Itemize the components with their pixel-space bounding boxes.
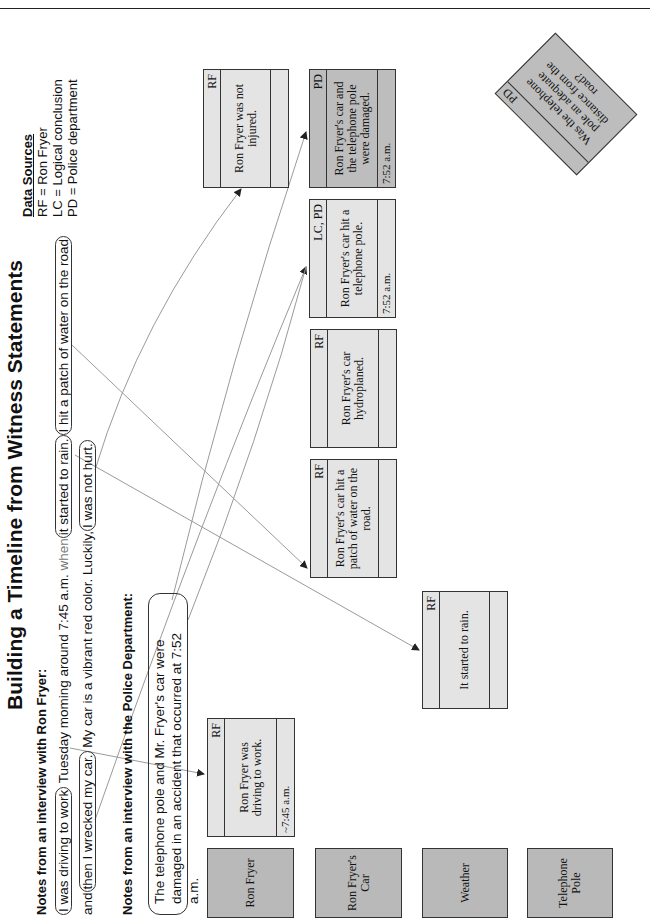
card-text: Ron Fryer's car hydroplaned. [328, 330, 378, 447]
card-time [489, 592, 507, 708]
note-text: and [80, 892, 95, 915]
card-started-to-rain: RF It started to rain. [422, 591, 508, 709]
card-source: RF [208, 719, 225, 836]
card-question-pole-distance: PD Was the telephone pole an adequate di… [495, 33, 638, 176]
note-oval-not-hurt: I was not hurt. [79, 440, 96, 531]
note-oval-rain: it started to rain. [55, 436, 72, 539]
card-text: Ron Fryer was driving to work. [225, 719, 276, 836]
arrow-not-injured [95, 189, 241, 470]
card-text: Was the telephone pole an adequate dista… [508, 34, 636, 162]
card-car-and-pole-damaged: PD Ron Fryer's car and the telephone pol… [309, 69, 396, 188]
police-note-line-1: The telephone pole and Mr. Fryer's car w… [151, 604, 168, 904]
card-source: RF [204, 70, 221, 187]
note-text: when [56, 538, 71, 570]
legend-item-lc: LC = Logical conclusion [50, 79, 65, 217]
card-time: 7:52 a.m. [377, 70, 395, 187]
card-source: RF [311, 330, 328, 447]
arrow-damaged [172, 132, 306, 600]
ron-fryer-notes-line-1: I was driving to work Tuesday moming aro… [55, 236, 72, 915]
card-source: RF [423, 592, 440, 708]
category-telephone-pole: Telephone Pole [527, 848, 613, 918]
note-text: Tuesday moming around 7:45 a.m. [56, 571, 71, 787]
legend-title: Data Sources [20, 79, 35, 217]
card-text: Ron Fryer was not injured. [221, 70, 270, 187]
data-sources-legend: Data Sources RF = Ron Fryer LC = Logical… [20, 79, 80, 217]
card-time [378, 460, 396, 577]
note-oval-patch: I hit a patch of water on the road [55, 236, 72, 436]
police-note-line-2: damaged in an accident that occurred at … [168, 604, 202, 904]
legend-item-rf: RF = Ron Fryer [35, 79, 50, 217]
card-not-injured: RF Ron Fryer was not injured. [203, 69, 289, 188]
ron-fryer-notes-heading: Notes from an interview with Ron Fryer: [34, 669, 49, 915]
card-text: Ron Fryer's car hit a telephone pole. [327, 200, 377, 317]
card-driving-to-work: RF Ron Fryer was driving to work. ~7:45 … [207, 718, 295, 837]
police-notes-oval: The telephone pole and Mr. Fryer's car w… [148, 593, 188, 915]
card-text: Ron Fryer's car hit a patch of water on … [328, 460, 378, 577]
note-text: My car is a vibrant red color. Luckily, [80, 531, 95, 751]
card-time [378, 330, 396, 447]
legend-item-pd: PD = Police department [65, 79, 80, 217]
category-ron-fryers-car: Ron Fryer's Car [315, 848, 402, 918]
card-text: Ron Fryer's car and the telephone pole w… [327, 70, 377, 187]
diagram-canvas: Building a Timeline from Witness Stateme… [0, 0, 650, 920]
card-time: ~7:45 a.m. [276, 719, 294, 836]
card-text: It started to rain. [440, 592, 489, 708]
note-oval-wrecked: then I wrecked my car. [79, 751, 96, 892]
card-source: LC, PD [310, 200, 327, 317]
category-weather: Weather [422, 848, 508, 918]
ron-fryer-notes-line-2: andthen I wrecked my car. My car is a vi… [79, 440, 96, 915]
category-ron-fryer: Ron Fryer [207, 848, 294, 918]
card-hydroplaned: RF Ron Fryer's car hydroplaned. [310, 329, 397, 448]
note-oval-driving: I was driving to work [55, 787, 72, 915]
card-source: PD [310, 70, 327, 187]
card-time: 7:52 a.m. [377, 200, 395, 317]
card-hit-telephone-pole: LC, PD Ron Fryer's car hit a telephone p… [309, 199, 396, 318]
card-source: RF [311, 460, 328, 577]
police-notes-heading: Notes from an interview with the Police … [120, 593, 135, 915]
card-hit-patch-of-water: RF Ron Fryer's car hit a patch of water … [310, 459, 397, 578]
arrow-patch [72, 345, 307, 568]
arrow-hit-pole-pd [188, 267, 306, 620]
card-time [270, 70, 288, 187]
